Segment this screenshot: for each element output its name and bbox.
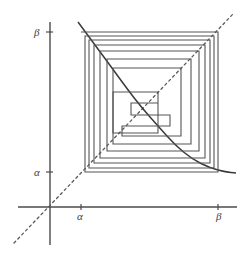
- cobweb-diagram-figure: β α α β: [0, 0, 248, 254]
- figure-canvas: [0, 0, 248, 254]
- x-axis-label-alpha: α: [77, 211, 83, 222]
- cobweb-inner-square: [113, 92, 158, 133]
- y-axis-label-alpha: α: [34, 167, 40, 178]
- x-axis-label-beta: β: [216, 211, 221, 222]
- identity-diagonal-line: [14, 14, 233, 243]
- y-axis-label-beta: β: [34, 27, 39, 38]
